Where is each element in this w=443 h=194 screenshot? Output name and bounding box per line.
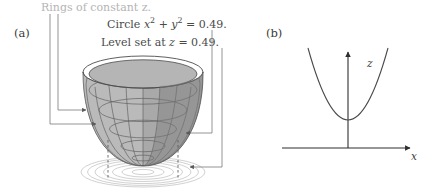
paraboloid-highlight-region (83, 72, 143, 166)
contour-ring (122, 167, 164, 177)
parabola-curve (308, 48, 388, 120)
leader-line-rings-lower (50, 14, 96, 124)
mesh-meridian (143, 87, 191, 166)
mesh-meridian (83, 72, 143, 166)
panel-label-b: (b) (266, 26, 282, 40)
annotation-circle-prefix: Circle (107, 18, 144, 31)
annotation-circle-value: = 0.49. (183, 18, 227, 31)
annotation-level-set-value: = 0.49. (175, 36, 219, 49)
paraboloid-latitude-mesh (89, 76, 197, 161)
axis-label-z: z (367, 57, 373, 69)
mesh-latitude (110, 120, 177, 138)
mesh-latitude (121, 140, 165, 152)
mesh-meridian (86, 60, 90, 84)
contour-ring (104, 163, 183, 182)
mesh-meridian (109, 86, 143, 166)
paraboloid-outer-body (83, 72, 203, 166)
paraboloid-rim (83, 56, 203, 88)
mesh-latitude (89, 76, 197, 104)
contour-ring (95, 160, 191, 183)
mesh-meridian (143, 86, 177, 166)
paraboloid-inner-rim (89, 60, 197, 88)
contour-ring (132, 169, 154, 174)
level-set-contour-rings (81, 157, 205, 187)
annotation-rings-of-constant-z: Rings of constant z. (41, 1, 151, 14)
projection-drop-lines (108, 140, 178, 178)
mesh-meridian (86, 84, 143, 166)
leader-line-level-set (190, 48, 222, 167)
mesh-meridian (126, 85, 143, 166)
annotation-circle-equation: Circle x2 + y2 = 0.49. (107, 18, 227, 31)
contour-ring (113, 165, 174, 180)
mesh-latitude (99, 98, 187, 121)
panel-label-a: (a) (14, 26, 30, 40)
annotation-level-set-prefix: Level set at (101, 36, 169, 49)
leader-lines-right (186, 30, 222, 167)
paraboloid-shadow-region (143, 72, 203, 166)
paraboloid-surface (83, 56, 203, 166)
panel-b-axes (282, 52, 410, 148)
annotation-circle-plus: + (155, 18, 171, 31)
mesh-meridian (143, 72, 203, 166)
mesh-meridian (196, 60, 200, 84)
mesh-meridian (100, 64, 102, 84)
figure-root: (a) Rings of constant z. Circle x2 + y2 … (0, 0, 443, 194)
mesh-meridian (143, 84, 200, 166)
paraboloid-meridian-mesh (83, 57, 203, 166)
mesh-meridian (95, 87, 143, 166)
mesh-meridian (143, 85, 160, 166)
axis-label-x: x (411, 150, 417, 162)
leader-line-rings-upper (58, 14, 86, 110)
leader-lines-left (50, 14, 96, 124)
contour-ring (88, 159, 199, 186)
annotation-level-set: Level set at z = 0.49. (101, 36, 219, 49)
contour-ring (81, 157, 205, 187)
mesh-meridian (184, 64, 186, 84)
mesh-latitude (132, 155, 154, 161)
